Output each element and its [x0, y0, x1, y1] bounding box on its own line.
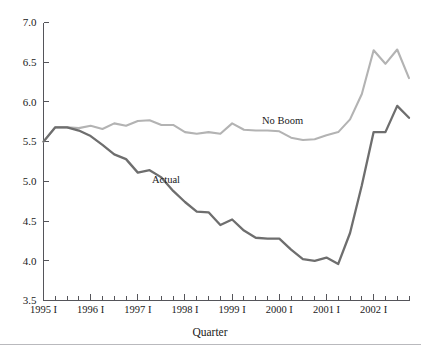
y-tick-label: 5.5	[23, 135, 37, 147]
x-tick-label: 2002 I	[360, 304, 388, 315]
x-tick-label: 1998 I	[171, 304, 199, 315]
line-chart: 3.54.04.55.05.56.06.57.0 1995 I1996 I199…	[0, 0, 421, 351]
y-tick-label-group: 3.54.04.55.05.56.06.57.0	[23, 16, 37, 306]
x-tick-label: 2000 I	[266, 304, 294, 315]
x-axis-title: Quarter	[192, 326, 227, 338]
y-tick-group	[44, 23, 49, 301]
y-tick-label: 4.5	[23, 215, 37, 227]
x-tick-group	[44, 294, 410, 301]
series-group	[44, 50, 410, 264]
x-tick-label: 2001 I	[313, 304, 341, 315]
chart-figure: 3.54.04.55.05.56.06.57.0 1995 I1996 I199…	[0, 0, 421, 351]
y-tick-label: 7.0	[23, 16, 37, 28]
y-tick-label: 4.0	[23, 255, 37, 267]
axes-group	[44, 23, 410, 301]
y-tick-label: 6.5	[23, 56, 37, 68]
x-tick-label-group: 1995 I1996 I1997 I1998 I1999 I2000 I2001…	[30, 304, 388, 315]
y-tick-label: 5.0	[23, 175, 37, 187]
y-tick-label: 6.0	[23, 96, 37, 108]
x-tick-label: 1999 I	[219, 304, 247, 315]
series-label-actual: Actual	[152, 174, 180, 185]
series-label-no-boom: No Boom	[262, 115, 303, 126]
x-tick-label: 1997 I	[124, 304, 152, 315]
footer-divider	[0, 344, 421, 345]
x-tick-label: 1995 I	[30, 304, 58, 315]
x-tick-label: 1996 I	[77, 304, 105, 315]
series-line-no-boom	[44, 50, 410, 142]
